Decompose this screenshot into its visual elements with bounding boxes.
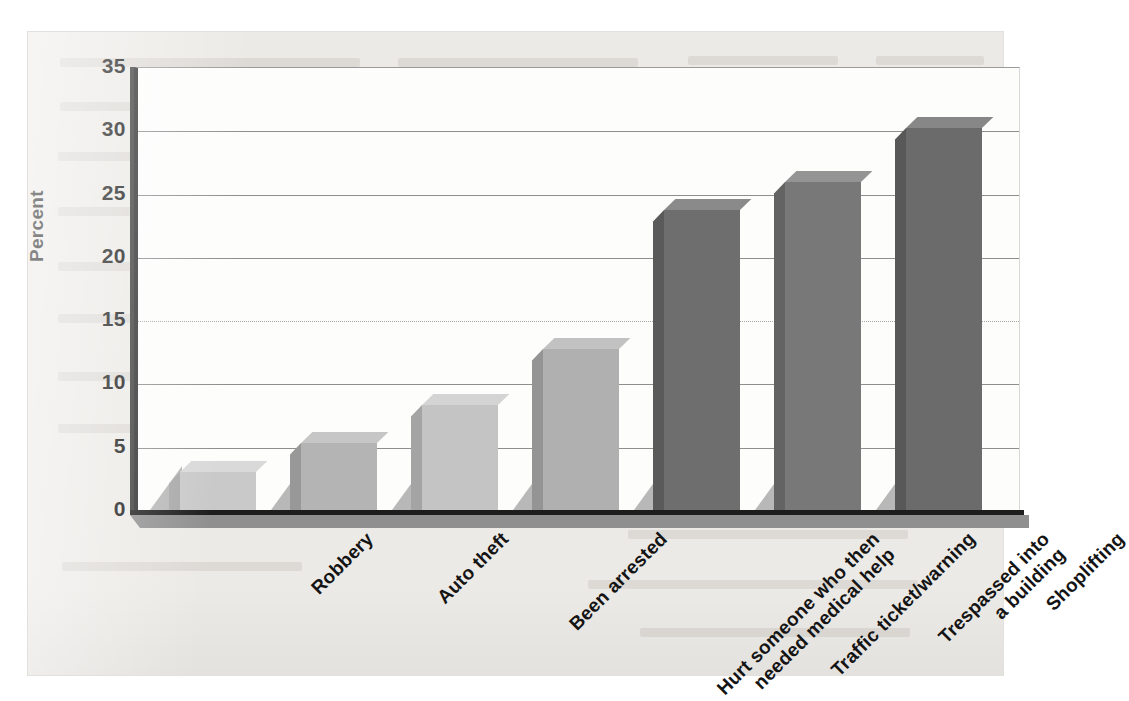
- y-tick-30: 30: [80, 117, 126, 141]
- ghost-text-line: [688, 56, 838, 65]
- bar-front-face: [180, 472, 256, 510]
- bar-top-face: [180, 461, 267, 472]
- bar-robbery: [180, 472, 256, 510]
- bar-hurt-someone: [543, 349, 619, 510]
- bar-front-face: [422, 405, 498, 510]
- y-tick-35: 35: [80, 54, 126, 78]
- x-label-been-arrested: Been arrested: [565, 528, 672, 635]
- bar-left-face: [774, 182, 785, 521]
- bar-left-face: [895, 128, 906, 522]
- bar-front-face: [543, 349, 619, 510]
- y-tick-25: 25: [80, 181, 126, 205]
- y-tick-20: 20: [80, 244, 126, 268]
- y-axis-tick-labels: 35 30 25 20 15 10 5 0: [74, 67, 126, 510]
- bar-been-arrested: [422, 405, 498, 510]
- x-label-hurt-someone: Hurt someone who then needed medical hel…: [713, 528, 900, 701]
- bar-top-face: [664, 199, 751, 210]
- x-axis-line: [130, 510, 1024, 515]
- bar-top-face: [301, 432, 388, 443]
- x-label-robbery: Robbery: [307, 528, 378, 599]
- bar-top-face: [543, 338, 630, 349]
- x-axis-category-labels: Robbery Auto theft Been arrested Hurt so…: [134, 518, 1034, 701]
- bar-front-face: [906, 128, 982, 510]
- bar-top-face: [422, 394, 509, 405]
- bar-trespassed: [785, 182, 861, 510]
- y-tick-5: 5: [80, 434, 126, 458]
- bar-shoplifting: [906, 128, 982, 510]
- ghost-text-line: [876, 56, 984, 65]
- y-tick-10: 10: [80, 370, 126, 394]
- y-tick-15: 15: [80, 307, 126, 331]
- scanned-page-sheet: Percent 35 30 25 20 15 10 5 0: [28, 32, 1003, 675]
- bar-left-face: [653, 210, 664, 521]
- bar-auto-theft: [301, 443, 377, 510]
- bar-series: [134, 67, 1020, 510]
- y-tick-0: 0: [80, 497, 126, 521]
- y-axis-title: Percent: [26, 190, 48, 262]
- bar-top-face: [785, 171, 872, 182]
- bar-left-face: [532, 349, 543, 521]
- bar-front-face: [664, 210, 740, 510]
- bar-front-face: [785, 182, 861, 510]
- bar-front-face: [301, 443, 377, 510]
- ghost-text-line: [398, 58, 638, 67]
- x-label-auto-theft: Auto theft: [433, 528, 513, 608]
- bar-top-face: [906, 117, 993, 128]
- bar-left-face: [411, 405, 422, 521]
- bar-traffic-ticket: [664, 210, 740, 510]
